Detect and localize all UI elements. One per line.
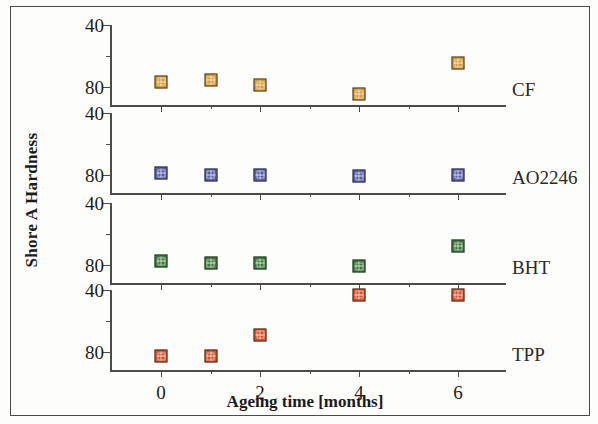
x-tick-minor [310,283,311,287]
data-point [204,168,217,181]
y-tick-major [103,87,111,88]
data-point [155,255,168,268]
y-tick-label: 40 [85,16,104,35]
marker-crossbar-v [458,59,459,68]
marker-crossbar-v [359,172,360,181]
data-point [155,167,168,180]
data-point [155,350,168,363]
x-tick-major [161,283,162,290]
x-tick-minor [409,283,410,287]
x-tick-minor [310,105,311,109]
y-tick-label: 80 [85,165,104,184]
marker-crossbar-v [161,257,162,266]
marker-crossbar-v [458,242,459,251]
x-axis-line [110,370,506,372]
marker-crossbar-v [210,170,211,179]
x-tick-major [260,193,261,200]
y-tick-label: 80 [85,255,104,274]
x-tick-major [458,105,459,112]
y-tick-major [103,25,111,26]
data-point [353,288,366,301]
data-point [353,88,366,101]
marker-crossbar-v [260,170,261,179]
x-tick-minor [310,370,311,374]
data-point [254,328,267,341]
x-tick-major [161,105,162,112]
marker-crossbar-v [161,352,162,361]
marker-crossbar-v [359,262,360,271]
data-point [204,257,217,270]
y-tick-label: 40 [85,281,104,300]
y-tick-label: 80 [85,77,104,96]
x-tick-major [359,105,360,112]
x-tick-major [458,193,459,200]
panel-bht: 8040BHT [110,203,506,283]
x-tick-minor [211,283,212,287]
data-point [155,75,168,88]
y-axis-line [110,113,112,193]
x-axis-line [110,105,506,107]
data-point [353,260,366,273]
x-tick-minor [211,105,212,109]
panel-tpp: 80400246TPP [110,290,506,370]
y-tick-minor [106,321,111,322]
marker-crossbar-v [161,77,162,86]
marker-crossbar-v [210,76,211,85]
panel-ao2246: 8040AO2246 [110,113,506,193]
x-tick-major [260,370,261,377]
data-point [353,170,366,183]
y-tick-minor [106,56,111,57]
y-axis-line [110,290,112,370]
x-axis-line [110,283,506,285]
x-tick-major [161,193,162,200]
series-label-ao2246: AO2246 [512,168,577,187]
panel-cf: 8040CF [110,25,506,105]
y-tick-major [103,290,111,291]
series-label-bht: BHT [512,258,550,277]
x-tick-major [458,370,459,377]
x-tick-label: 4 [354,383,364,402]
x-tick-major [359,370,360,377]
x-tick-major [161,370,162,377]
data-point [452,57,465,70]
x-tick-major [359,193,360,200]
marker-crossbar-v [260,81,261,90]
y-tick-major [103,265,111,266]
plot-area: Shore A Hardness Ageing time [months] 80… [0,0,598,424]
figure-scan: Shore A Hardness Ageing time [months] 80… [0,0,598,424]
data-point [254,168,267,181]
y-tick-minor [106,144,111,145]
marker-crossbar-v [458,170,459,179]
x-tick-minor [409,193,410,197]
y-tick-label: 80 [85,342,104,361]
x-tick-minor [409,105,410,109]
marker-crossbar-v [260,330,261,339]
y-tick-label: 40 [85,104,104,123]
series-label-cf: CF [512,80,535,99]
x-tick-major [260,105,261,112]
y-tick-major [103,352,111,353]
data-point [452,240,465,253]
x-tick-label: 6 [453,383,463,402]
x-tick-minor [211,193,212,197]
x-tick-minor [211,370,212,374]
x-tick-minor [409,370,410,374]
y-tick-major [103,113,111,114]
y-axis-line [110,25,112,105]
data-point [204,74,217,87]
y-axis-line [110,203,112,283]
y-tick-major [103,203,111,204]
x-tick-major [260,283,261,290]
x-tick-label: 2 [255,383,265,402]
marker-crossbar-v [161,169,162,178]
y-tick-minor [106,234,111,235]
y-tick-major [103,175,111,176]
data-point [204,350,217,363]
x-axis-line [110,193,506,195]
data-point [452,288,465,301]
marker-crossbar-v [210,259,211,268]
marker-crossbar-v [359,90,360,99]
x-tick-minor [310,193,311,197]
y-axis-title: Shore A Hardness [22,100,42,300]
data-point [254,257,267,270]
